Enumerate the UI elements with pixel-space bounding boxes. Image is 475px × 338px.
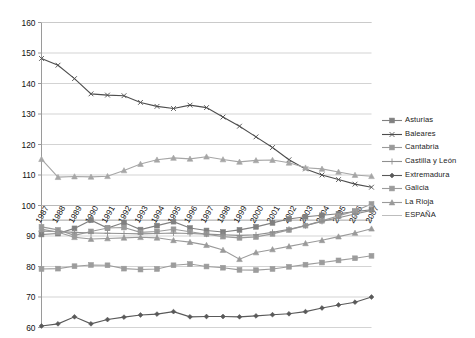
data-point-marker bbox=[122, 266, 127, 271]
data-point-marker bbox=[390, 173, 395, 178]
y-axis-tick-label: 70 bbox=[26, 292, 36, 302]
data-point-marker bbox=[72, 264, 77, 269]
data-point-marker bbox=[390, 146, 395, 151]
data-point-marker bbox=[390, 118, 395, 123]
data-point-marker bbox=[89, 218, 94, 223]
legend-item-la-rioja[interactable]: La Rioja bbox=[381, 195, 475, 209]
y-axis-tick-label: 90 bbox=[26, 231, 36, 241]
data-point-marker bbox=[336, 258, 341, 263]
legend-item-extremadura[interactable]: Extremadura bbox=[381, 167, 475, 181]
y-axis-tick-label: 120 bbox=[22, 140, 36, 150]
data-point-marker bbox=[254, 224, 259, 229]
data-point-marker bbox=[389, 159, 395, 165]
y-axis-tick-label: 150 bbox=[22, 48, 36, 58]
legend-item-label: Galicia bbox=[405, 183, 429, 192]
data-point-marker bbox=[204, 264, 209, 269]
data-point-marker bbox=[303, 262, 308, 267]
data-point-marker bbox=[171, 219, 176, 224]
data-point-marker bbox=[320, 213, 325, 218]
legend-item-españa[interactable]: ESPAÑA bbox=[381, 208, 475, 222]
legend-item-galicia[interactable]: Galicia bbox=[381, 181, 475, 195]
legend-marker-icon bbox=[381, 195, 403, 208]
data-point-marker bbox=[155, 267, 160, 272]
data-point-marker bbox=[89, 263, 94, 268]
y-axis-tick-label: 160 bbox=[22, 18, 36, 28]
data-point-marker bbox=[270, 220, 275, 225]
data-point-marker bbox=[287, 217, 292, 222]
data-point-marker bbox=[171, 263, 176, 268]
data-point-marker bbox=[237, 228, 242, 233]
legend-item-label: Asturias bbox=[405, 115, 433, 124]
y-axis-tick-label: 140 bbox=[22, 79, 36, 89]
legend-item-label: ESPAÑA bbox=[405, 210, 436, 219]
chart-container: 6070809010011012013014015016019871988198… bbox=[0, 0, 475, 338]
legend-item-asturias[interactable]: Asturias bbox=[381, 113, 475, 127]
data-point-marker bbox=[353, 256, 358, 261]
data-point-marker bbox=[56, 266, 61, 271]
y-axis-tick-label: 130 bbox=[22, 109, 36, 119]
data-point-marker bbox=[122, 225, 127, 230]
legend-marker-icon bbox=[381, 113, 403, 126]
legend-marker-icon bbox=[381, 127, 403, 140]
legend-item-castilla-y-león[interactable]: Castilla y León bbox=[381, 154, 475, 168]
data-point-marker bbox=[138, 267, 143, 272]
chart-legend: AsturiasBalearesCantabriaCastilla y León… bbox=[381, 113, 475, 222]
y-axis-tick-label: 110 bbox=[22, 170, 36, 180]
data-point-marker bbox=[369, 253, 374, 258]
legend-marker-icon bbox=[381, 168, 403, 181]
data-point-marker bbox=[254, 268, 259, 273]
legend-item-label: Baleares bbox=[405, 129, 436, 138]
legend-item-label: La Rioja bbox=[405, 197, 434, 206]
data-point-marker bbox=[39, 267, 44, 272]
data-point-marker bbox=[105, 263, 110, 268]
data-point-marker bbox=[155, 223, 160, 228]
data-point-marker bbox=[320, 260, 325, 265]
data-point-marker bbox=[188, 262, 193, 267]
data-point-marker bbox=[122, 220, 127, 225]
data-point-marker bbox=[237, 267, 242, 272]
data-point-marker bbox=[287, 264, 292, 269]
legend-marker-icon bbox=[381, 154, 403, 167]
legend-marker-icon bbox=[381, 140, 403, 153]
legend-marker-icon bbox=[381, 208, 403, 221]
legend-item-label: Extremadura bbox=[405, 170, 450, 179]
data-point-marker bbox=[390, 186, 395, 191]
data-point-marker bbox=[221, 265, 226, 270]
legend-item-label: Cantabria bbox=[405, 142, 439, 151]
data-point-marker bbox=[105, 226, 110, 231]
legend-item-baleares[interactable]: Baleares bbox=[381, 127, 475, 141]
data-point-marker bbox=[270, 267, 275, 272]
data-point-marker bbox=[303, 214, 308, 219]
legend-marker-icon bbox=[381, 181, 403, 194]
y-axis-tick-label: 60 bbox=[26, 323, 36, 333]
y-axis-tick-label: 80 bbox=[26, 262, 36, 272]
y-axis-tick-label: 100 bbox=[22, 201, 36, 211]
legend-item-cantabria[interactable]: Cantabria bbox=[381, 140, 475, 154]
legend-item-label: Castilla y León bbox=[405, 156, 456, 165]
